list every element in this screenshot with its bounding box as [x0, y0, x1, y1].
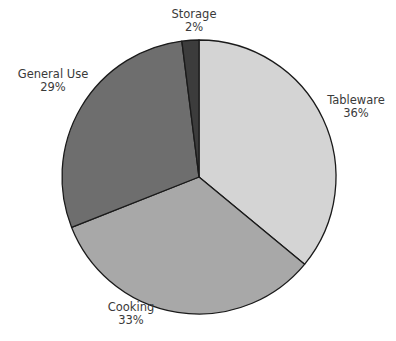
label-storage: Storage 2%	[172, 8, 217, 34]
label-general-use: General Use 29%	[18, 68, 88, 94]
label-cooking: Cooking 33%	[108, 301, 155, 327]
pie-slices	[62, 40, 336, 314]
label-storage-pct: 2%	[172, 21, 217, 34]
label-general-use-pct: 29%	[18, 81, 88, 94]
label-tableware-pct: 36%	[327, 107, 385, 120]
label-tableware: Tableware 36%	[327, 94, 385, 120]
pie-chart	[0, 0, 396, 341]
label-cooking-pct: 33%	[108, 314, 155, 327]
